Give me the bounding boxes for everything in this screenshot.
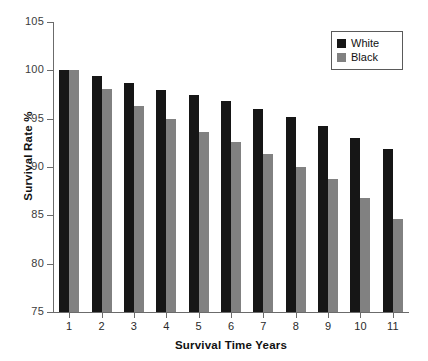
bar-black-year-7	[263, 154, 273, 312]
x-tick-mark	[296, 313, 297, 318]
bar-white-year-4	[156, 90, 166, 312]
x-tick-label: 4	[151, 320, 181, 332]
bar-group	[92, 22, 112, 312]
bar-group	[156, 22, 176, 312]
survival-rate-bar-chart: 7580859095100105 Survival Rate % Surviva…	[0, 0, 428, 361]
bar-white-year-3	[124, 83, 134, 312]
bar-black-year-2	[102, 89, 112, 312]
x-tick-label: 6	[216, 320, 246, 332]
y-tick-label: 75	[4, 305, 44, 317]
x-tick-label: 9	[313, 320, 343, 332]
x-tick-mark	[393, 313, 394, 318]
x-tick-label: 8	[281, 320, 311, 332]
x-tick-mark	[263, 313, 264, 318]
bar-black-year-3	[134, 106, 144, 312]
bar-white-year-6	[221, 101, 231, 312]
x-tick-mark	[231, 313, 232, 318]
x-tick-label: 1	[54, 320, 84, 332]
bar-black-year-4	[166, 119, 176, 312]
bar-white-year-2	[92, 76, 102, 312]
legend-item: Black	[337, 50, 397, 64]
bar-black-year-1	[69, 70, 79, 312]
bar-white-year-8	[286, 117, 296, 312]
x-tick-mark	[134, 313, 135, 318]
y-axis-title: Survival Rate %	[22, 76, 34, 236]
x-tick-mark	[102, 313, 103, 318]
bar-group	[253, 22, 273, 312]
bar-black-year-9	[328, 179, 338, 312]
bar-white-year-9	[318, 126, 328, 312]
bar-group	[286, 22, 306, 312]
bar-black-year-5	[199, 132, 209, 312]
x-tick-mark	[69, 313, 70, 318]
legend-label: White	[351, 37, 379, 49]
y-tick-label: 100	[4, 63, 44, 75]
x-tick-label: 5	[184, 320, 214, 332]
scan-artifact	[60, 0, 240, 4]
x-tick-mark	[199, 313, 200, 318]
bar-group	[221, 22, 241, 312]
y-tick-mark	[47, 312, 53, 313]
bar-black-year-10	[360, 198, 370, 312]
bar-white-year-11	[383, 149, 393, 312]
bar-white-year-7	[253, 109, 263, 312]
legend-swatch-icon	[337, 53, 346, 62]
x-axis-title: Survival Time Years	[53, 339, 409, 351]
bar-white-year-1	[59, 70, 69, 312]
y-tick-label: 80	[4, 257, 44, 269]
bar-group	[124, 22, 144, 312]
x-tick-label: 10	[345, 320, 375, 332]
x-tick-label: 7	[248, 320, 278, 332]
x-tick-mark	[328, 313, 329, 318]
bar-white-year-10	[350, 138, 360, 312]
bar-black-year-6	[231, 142, 241, 312]
x-tick-label: 11	[378, 320, 408, 332]
bar-group	[189, 22, 209, 312]
x-tick-label: 2	[87, 320, 117, 332]
bar-black-year-11	[393, 219, 403, 312]
bar-group	[59, 22, 79, 312]
legend-item: White	[337, 36, 397, 50]
x-tick-mark	[166, 313, 167, 318]
x-tick-mark	[360, 313, 361, 318]
x-tick-label: 3	[119, 320, 149, 332]
bar-black-year-8	[296, 167, 306, 312]
legend-swatch-icon	[337, 39, 346, 48]
y-tick-label: 105	[4, 15, 44, 27]
chart-legend: WhiteBlack	[331, 31, 403, 70]
legend-label: Black	[351, 51, 378, 63]
bar-white-year-5	[189, 95, 199, 312]
